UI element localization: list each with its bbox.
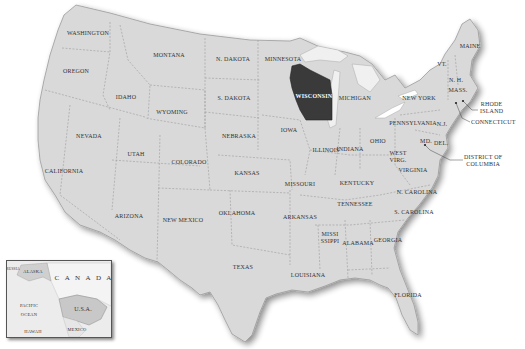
state-label-new-york: NEW YORK (402, 95, 435, 101)
state-label-michigan: MICHIGAN (339, 95, 371, 101)
callout-rhode-island-line2: ISLAND (480, 108, 503, 115)
state-label-new-hampshire: N. H. (449, 77, 463, 83)
state-label-north-dakota: N. DAKOTA (216, 56, 250, 62)
state-label-arkansas: ARKANSAS (283, 214, 317, 220)
callout-dc-line1: DISTRICT OF (464, 154, 502, 161)
state-label-west-virginia: WEST VIRG. (389, 150, 407, 164)
state-label-georgia: GEORGIA (374, 237, 402, 243)
state-label-minnesota: MINNESOTA (265, 56, 302, 62)
inset-label-pacific: PACIFIC (20, 303, 38, 308)
state-label-pennsylvania: PENNSYLVANIA (389, 120, 436, 126)
state-label-north-carolina: N. CAROLINA (397, 189, 438, 195)
state-label-oklahoma: OKLAHOMA (219, 210, 256, 216)
state-label-utah: UTAH (128, 151, 145, 157)
state-label-ohio: OHIO (370, 138, 386, 144)
state-label-iowa: IOWA (281, 127, 297, 133)
callout-rhode-island-line1: RHODE (480, 101, 503, 108)
state-label-indiana: INDIANA (336, 146, 363, 152)
inset-label-ocean: OCEAN (21, 312, 38, 317)
callout-connecticut: CONNECTICUT (471, 119, 516, 125)
inset-label-hawaii: HAWAII (24, 329, 41, 334)
state-label-new-jersey: N.J. (437, 121, 447, 127)
inset-label-mexico: MEXICO (68, 327, 87, 332)
state-label-wisconsin: WISCONSIN (296, 93, 333, 99)
state-label-washington: WASHINGTON (67, 30, 109, 36)
state-label-virginia: VIRGINIA (399, 167, 428, 173)
state-label-louisiana: LOUISIANA (291, 272, 325, 278)
inset-label-canada: C A N A D A (55, 274, 112, 282)
state-label-maryland: MD. (420, 138, 432, 144)
inset-label-alaska: ALASKA (23, 269, 42, 274)
callout-district-of-columbia: DISTRICT OF COLUMBIA (464, 154, 502, 168)
state-label-tennessee: TENNESSEE (337, 201, 372, 207)
inset-label-russia: RUSSIA (6, 267, 20, 271)
state-label-montana: MONTANA (153, 52, 185, 58)
state-label-mississippi: MISSISSIPPI (320, 231, 340, 245)
state-label-wyoming: WYOMING (156, 109, 188, 115)
state-label-texas: TEXAS (233, 264, 253, 270)
state-label-california: CALIFORNIA (45, 168, 83, 174)
state-label-arizona: ARIZONA (115, 213, 143, 219)
state-label-nevada: NEVADA (76, 133, 102, 139)
state-label-colorado: COLORADO (172, 159, 207, 165)
state-label-kentucky: KENTUCKY (340, 180, 375, 186)
state-label-maine: MAINE (460, 43, 481, 49)
callout-rhode-island: RHODE ISLAND (480, 101, 503, 115)
state-label-nebraska: NEBRASKA (222, 133, 256, 139)
state-label-south-carolina: S. CAROLINA (394, 209, 434, 215)
state-label-missouri: MISSOURI (285, 181, 315, 187)
state-label-kansas: KANSAS (234, 170, 259, 176)
locator-inset-map: RUSSIA ALASKA C A N A D A PACIFIC OCEAN … (6, 260, 112, 338)
state-label-idaho: IDAHO (116, 94, 136, 100)
state-label-delaware: DEL. (434, 140, 448, 146)
state-label-illinois: ILLINOIS (313, 147, 340, 153)
callout-dc-line2: COLUMBIA (464, 161, 502, 168)
state-label-alabama: ALABAMA (342, 240, 374, 246)
state-label-florida: FLORIDA (394, 292, 421, 298)
state-label-south-dakota: S. DAKOTA (218, 95, 251, 101)
inset-label-usa: U.S.A. (74, 306, 92, 312)
state-label-massachusetts: MASS. (449, 87, 468, 93)
state-label-new-mexico: NEW MEXICO (163, 217, 204, 223)
state-label-vermont: VT. (437, 61, 447, 67)
state-label-oregon: OREGON (63, 68, 89, 74)
